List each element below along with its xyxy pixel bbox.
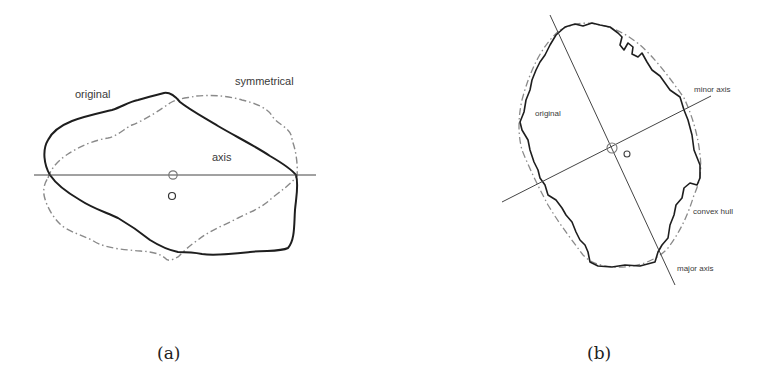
label-original-b: original bbox=[535, 109, 561, 118]
label-minor-axis: minor axis bbox=[694, 85, 730, 94]
label-major-axis: major axis bbox=[677, 264, 713, 273]
label-symmetrical: symmetrical bbox=[235, 75, 294, 87]
caption-a: (a) bbox=[157, 343, 180, 363]
original-contour bbox=[44, 93, 297, 255]
panel-a: original symmetrical axis bbox=[34, 75, 316, 260]
panel-b: minor axis original convex hull major ax… bbox=[502, 15, 733, 285]
caption-b: (b) bbox=[587, 343, 611, 363]
shape-centroid-marker bbox=[169, 193, 176, 200]
label-convex-hull: convex hull bbox=[693, 207, 733, 216]
major-axis-line bbox=[550, 15, 675, 285]
label-original-a: original bbox=[75, 88, 110, 100]
figure-canvas: original symmetrical axis minor axis ori… bbox=[0, 0, 762, 392]
shape-centroid-marker-b bbox=[624, 151, 630, 157]
label-axis: axis bbox=[212, 151, 232, 163]
minor-axis-line bbox=[502, 96, 711, 202]
